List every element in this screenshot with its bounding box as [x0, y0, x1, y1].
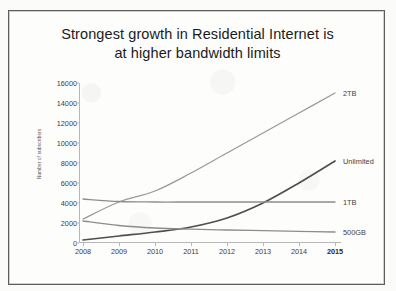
x-tick-2008: 2008 [75, 247, 91, 256]
series-label-500gb: 500GB [343, 228, 366, 237]
y-tick-16000: 16000 [57, 79, 77, 88]
x-tick-2009: 2009 [111, 247, 127, 256]
scanned-slide-page: Strongest growth in Residential Internet… [0, 0, 396, 291]
x-tick-2012: 2012 [219, 247, 235, 256]
y-tick-4000: 4000 [61, 199, 77, 208]
x-tickmark-2010 [155, 243, 156, 246]
y-axis-tick-labels: 0200040006000800010000120001400016000 [33, 83, 77, 243]
y-tick-6000: 6000 [61, 179, 77, 188]
x-tick-2015: 2015 [327, 247, 343, 256]
y-tickmark-10000 [76, 143, 79, 144]
title-line-2: at higher bandwidth limits [31, 44, 364, 63]
series-label-unlimited: Unlimited [343, 157, 374, 166]
slide-frame: Strongest growth in Residential Internet… [8, 10, 385, 285]
y-tick-14000: 14000 [57, 99, 77, 108]
x-tick-2013: 2013 [255, 247, 271, 256]
x-tickmark-2013 [263, 243, 264, 246]
x-tick-2014: 2014 [291, 247, 307, 256]
y-tickmark-8000 [76, 163, 79, 164]
x-tickmark-2014 [299, 243, 300, 246]
title-line-1: Strongest growth in Residential Internet… [61, 26, 334, 42]
x-tickmark-2009 [119, 243, 120, 246]
y-tickmark-6000 [76, 183, 79, 184]
y-tick-2000: 2000 [61, 219, 77, 228]
x-tickmark-2015 [335, 243, 336, 246]
y-tick-12000: 12000 [57, 119, 77, 128]
y-tickmark-14000 [76, 103, 79, 104]
x-tickmark-2012 [227, 243, 228, 246]
series-line-1tb [83, 199, 335, 202]
x-tickmark-2008 [83, 243, 84, 246]
page-title: Strongest growth in Residential Internet… [31, 25, 364, 63]
y-tickmark-4000 [76, 203, 79, 204]
y-tickmark-2000 [76, 223, 79, 224]
y-tick-10000: 10000 [57, 139, 77, 148]
x-tick-2010: 2010 [147, 247, 163, 256]
series-label-2tb: 2TB [343, 89, 357, 98]
series-label-1tb: 1TB [343, 198, 357, 207]
series-lines [79, 83, 341, 243]
series-line-unlimited [83, 161, 335, 240]
series-line-2tb [83, 93, 335, 219]
plot-area [79, 83, 341, 243]
y-tick-8000: 8000 [61, 159, 77, 168]
y-tickmark-0 [76, 243, 79, 244]
x-tickmark-2011 [191, 243, 192, 246]
x-tick-2011: 2011 [183, 247, 199, 256]
y-tickmark-12000 [76, 123, 79, 124]
line-chart: Number of subscribers 020004000600080001… [33, 83, 363, 273]
y-tickmark-16000 [76, 83, 79, 84]
